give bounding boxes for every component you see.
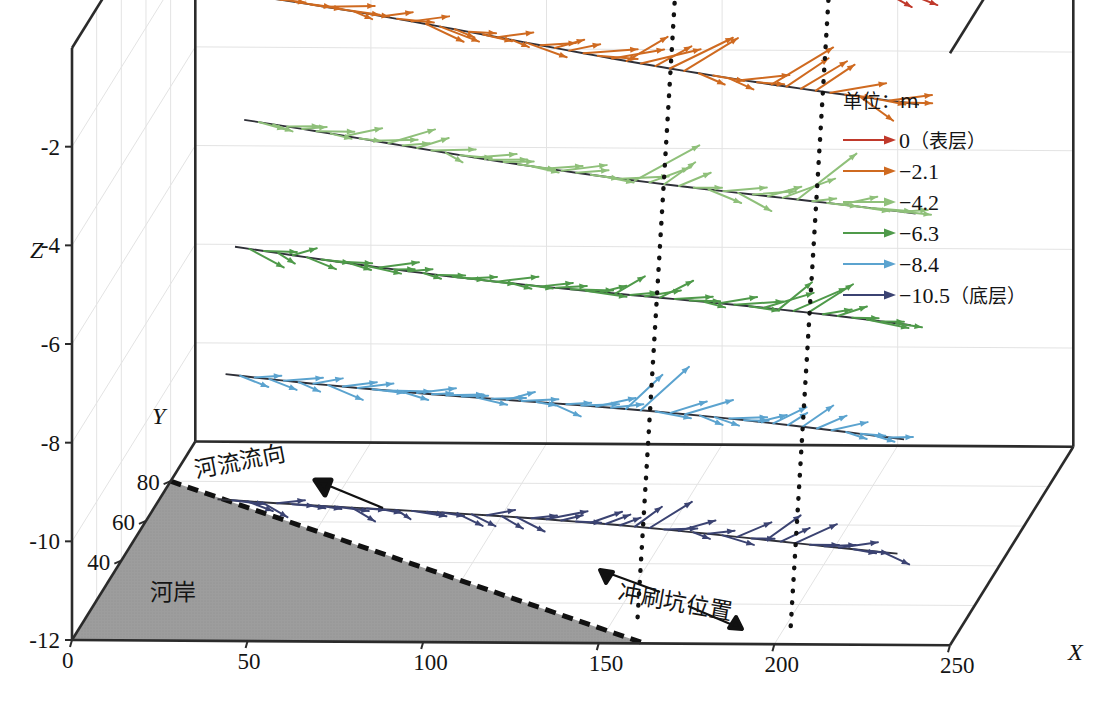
legend-item: −6.3 bbox=[843, 221, 939, 246]
velocity-arrowhead bbox=[731, 420, 739, 426]
velocity-arrowhead bbox=[276, 261, 284, 267]
y-tick-label: 60 bbox=[112, 510, 135, 535]
scour-pit-line bbox=[637, 0, 680, 625]
x-tick-label: 250 bbox=[940, 653, 975, 678]
legend-item: −10.5（底层） bbox=[843, 283, 1026, 308]
velocity-arrowhead bbox=[309, 247, 317, 253]
river-bank-region bbox=[72, 481, 644, 643]
z-tick-label: -10 bbox=[29, 529, 60, 554]
velocity-vector bbox=[684, 38, 738, 71]
velocity-arrowhead bbox=[573, 411, 581, 417]
z-tick-label: -2 bbox=[41, 135, 60, 160]
legend-item-label: −10.5（底层） bbox=[899, 283, 1026, 308]
velocity-arrowhead bbox=[410, 137, 418, 143]
velocity-arrowhead bbox=[455, 156, 463, 162]
quiver-layer bbox=[252, 0, 932, 121]
velocity-arrowhead bbox=[260, 381, 268, 387]
velocity-arrowhead bbox=[328, 264, 336, 270]
velocity-arrowhead bbox=[905, 434, 913, 440]
legend-item-label: −8.4 bbox=[899, 252, 939, 277]
scour-pit-line bbox=[790, 0, 833, 634]
velocity-arrowhead bbox=[925, 100, 933, 106]
y-tick-label: 80 bbox=[137, 470, 160, 495]
legend-swatch-arrow bbox=[884, 291, 896, 300]
velocity-arrowhead bbox=[456, 36, 464, 42]
velocity-arrowhead bbox=[685, 281, 693, 287]
velocity-arrowhead bbox=[827, 178, 835, 184]
velocity-arrowhead bbox=[579, 283, 587, 289]
x-tick-label: 50 bbox=[238, 649, 261, 674]
velocity-arrowhead bbox=[839, 416, 847, 422]
velocity-arrowhead bbox=[798, 407, 806, 413]
velocity-arrowhead bbox=[537, 525, 545, 531]
velocity-arrowhead bbox=[802, 528, 810, 534]
legend-item: −8.4 bbox=[843, 252, 939, 277]
velocity-arrowhead bbox=[551, 397, 559, 403]
figure-canvas: 050100150200250-2-4-6-8-10-12406080 Z Y … bbox=[0, 0, 1101, 722]
velocity-arrowhead bbox=[859, 306, 867, 312]
legend-swatch-arrow bbox=[884, 260, 896, 269]
x-tick-label: 150 bbox=[589, 651, 624, 676]
quiver-layer bbox=[226, 367, 913, 443]
velocity-arrowhead bbox=[763, 522, 771, 528]
velocity-arrowhead bbox=[630, 47, 638, 53]
z-tick-label: -6 bbox=[41, 332, 60, 357]
velocity-arrowhead bbox=[733, 197, 741, 203]
z-tick-label: -8 bbox=[41, 431, 60, 456]
velocity-arrowhead bbox=[312, 386, 320, 392]
velocity-arrowhead bbox=[441, 137, 449, 143]
legend-item-label: −4.2 bbox=[899, 190, 939, 215]
velocity-arrowhead bbox=[559, 52, 567, 58]
legend-title: 单位：m bbox=[843, 90, 919, 112]
velocity-arrowhead bbox=[287, 257, 295, 264]
velocity-arrowhead bbox=[725, 399, 733, 405]
velocity-arrowhead bbox=[622, 514, 630, 520]
velocity-arrowhead bbox=[749, 295, 757, 301]
velocity-arrowhead bbox=[901, 559, 909, 565]
velocity-arrowhead bbox=[367, 515, 375, 521]
velocity-arrowhead bbox=[488, 30, 496, 36]
velocity-vector bbox=[797, 154, 856, 200]
velocity-arrowhead bbox=[845, 284, 853, 291]
legend-swatch-arrow bbox=[884, 229, 896, 238]
velocity-arrowhead bbox=[705, 294, 713, 300]
velocity-arrowhead bbox=[289, 384, 297, 390]
velocity-arrowhead bbox=[829, 524, 837, 530]
quiver-layer bbox=[235, 247, 922, 330]
velocity-arrowhead bbox=[904, 1, 912, 7]
x-tick-label: 0 bbox=[62, 648, 74, 673]
legend-item-label: −6.3 bbox=[899, 221, 939, 246]
scour-pit-label: 冲刷坑位置 bbox=[616, 579, 734, 625]
velocity-vector bbox=[583, 49, 637, 53]
velocity-arrowhead bbox=[489, 274, 497, 280]
x-tick-label: 100 bbox=[413, 650, 448, 675]
velocity-arrowhead bbox=[527, 391, 535, 397]
river-bank-label: 河岸 bbox=[150, 579, 196, 605]
velocity-arrowhead bbox=[839, 61, 847, 67]
velocity-arrowhead bbox=[763, 205, 771, 211]
z-tick-label: -12 bbox=[29, 628, 60, 653]
legend-item-label: 0（表层） bbox=[899, 128, 986, 153]
velocity-arrowhead bbox=[745, 84, 753, 90]
flow-direction-label: 河流流向 bbox=[192, 440, 287, 483]
legend-item-label: −2.1 bbox=[899, 159, 939, 184]
legend-swatch-arrow bbox=[884, 136, 896, 145]
velocity-arrowhead bbox=[806, 292, 814, 298]
velocity-arrowhead bbox=[717, 79, 725, 85]
velocity-arrowhead bbox=[305, 0, 313, 1]
velocity-arrowhead bbox=[355, 394, 363, 400]
velocity-arrowhead bbox=[684, 502, 692, 508]
velocity-vector bbox=[783, 179, 836, 198]
velocity-vector bbox=[772, 47, 833, 84]
x-axis-title: X bbox=[1067, 639, 1084, 665]
velocity-arrowhead bbox=[929, 0, 937, 5]
legend-swatch-arrow bbox=[884, 167, 896, 176]
velocity-arrowhead bbox=[746, 540, 754, 546]
velocity-arrowhead bbox=[637, 276, 645, 282]
velocity-arrowhead bbox=[274, 373, 282, 379]
legend-swatch-arrow bbox=[884, 198, 896, 207]
velocity-arrowhead bbox=[526, 159, 534, 165]
z-axis-title: Z bbox=[30, 237, 44, 263]
velocity-arrowhead bbox=[427, 129, 435, 135]
velocity-arrowhead bbox=[315, 375, 323, 381]
